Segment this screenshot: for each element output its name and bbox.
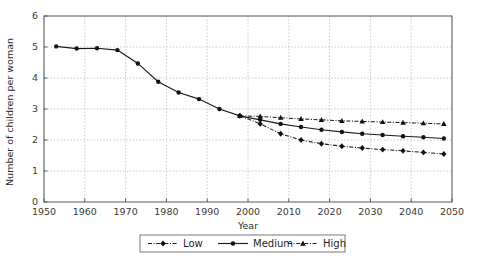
fertility-projection-chart: 0123456 19501960197019801990200020102020… xyxy=(0,0,484,269)
y-tick-label: 4 xyxy=(32,72,38,83)
y-tick-label: 6 xyxy=(32,10,38,21)
legend-label: Medium xyxy=(253,238,293,249)
series-medium xyxy=(54,44,446,140)
x-tick-label: 2010 xyxy=(277,206,301,217)
legend-label: Low xyxy=(183,238,203,249)
y-axis-tick-labels: 0123456 xyxy=(32,10,38,207)
x-tick-label: 2020 xyxy=(318,206,342,217)
x-tick-label: 2040 xyxy=(399,206,423,217)
y-axis-title: Number of children per woman xyxy=(4,38,15,186)
x-tick-label: 1990 xyxy=(195,206,219,217)
x-axis-title: Year xyxy=(237,220,258,231)
x-tick-label: 1950 xyxy=(32,206,56,217)
y-tick-label: 2 xyxy=(32,134,38,145)
chart-canvas: 0123456 19501960197019801990200020102020… xyxy=(0,0,484,269)
x-tick-label: 1980 xyxy=(154,206,178,217)
y-tick-label: 3 xyxy=(32,103,38,114)
x-axis-tick-labels: 1950196019701980199020002010202020302040… xyxy=(32,206,464,217)
chart-legend: LowMediumHigh xyxy=(140,235,346,252)
y-tick-label: 5 xyxy=(32,41,38,52)
x-tick-label: 1970 xyxy=(114,206,138,217)
x-tick-label: 1960 xyxy=(73,206,97,217)
legend-label: High xyxy=(323,238,346,249)
x-tick-label: 2000 xyxy=(236,206,260,217)
series-high xyxy=(237,113,446,126)
x-tick-label: 2030 xyxy=(358,206,382,217)
y-tick-label: 1 xyxy=(32,165,38,176)
x-tick-label: 2050 xyxy=(440,206,464,217)
